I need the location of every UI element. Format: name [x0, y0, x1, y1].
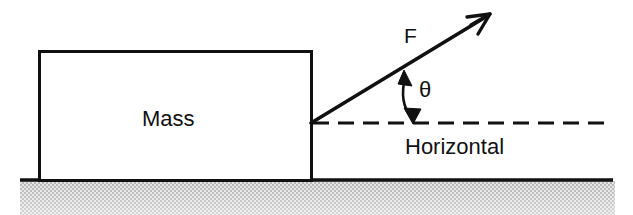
ground-region: [20, 181, 615, 215]
force-label: F: [404, 24, 417, 47]
mass-label: Mass: [142, 106, 195, 131]
horizontal-label: Horizontal: [405, 134, 504, 159]
physics-diagram: Mass F θ Horizontal: [0, 0, 633, 215]
force-vector: [311, 14, 490, 123]
diagram-canvas: Mass F θ Horizontal: [0, 0, 633, 215]
ground-hatch-fade: [20, 181, 615, 215]
angle-label: θ: [419, 77, 431, 102]
force-vector-shaft: [311, 18, 484, 123]
angle-arc: [398, 70, 421, 124]
angle-arc-head-upper: [398, 70, 412, 86]
